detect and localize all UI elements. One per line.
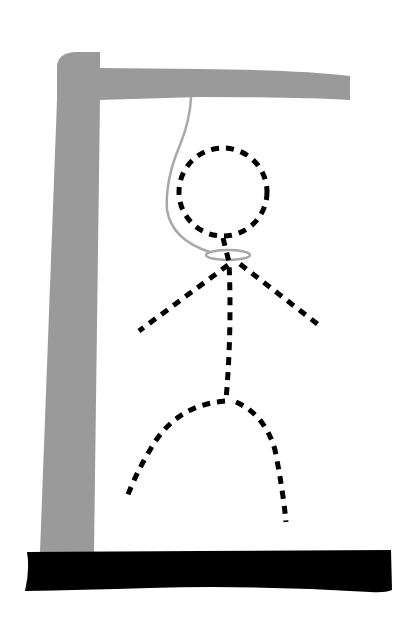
left-leg (126, 401, 225, 500)
hangman-illustration: Hangman drawing (0, 0, 417, 629)
body (223, 238, 230, 400)
gallows-beam (98, 68, 350, 100)
right-arm (240, 264, 320, 326)
gallows-post (40, 52, 100, 552)
right-leg (236, 402, 286, 522)
ground-base (25, 550, 392, 592)
head (179, 148, 267, 236)
left-arm (139, 265, 228, 331)
